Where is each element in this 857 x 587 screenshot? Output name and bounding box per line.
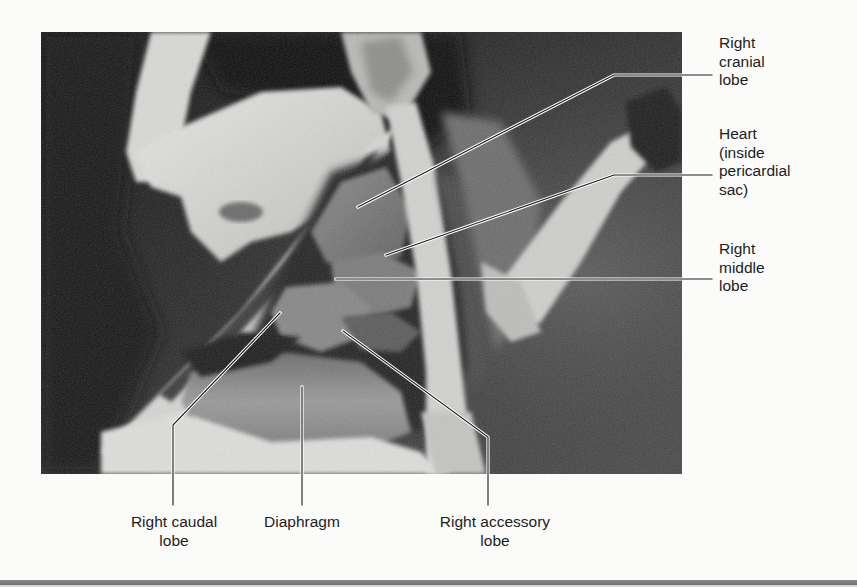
anatomy-figure: Right cranial lobe Heart (inside pericar… <box>0 0 857 587</box>
label-line: pericardial <box>719 162 791 181</box>
label-right-accessory-lobe: Right accessory lobe <box>420 513 570 550</box>
label-line: lobe <box>420 532 570 551</box>
label-line: sac) <box>719 181 791 200</box>
label-diaphragm: Diaphragm <box>248 513 356 532</box>
label-line: Right <box>719 240 765 259</box>
label-line: middle <box>719 259 765 278</box>
label-line: Right <box>719 34 765 53</box>
leader-right-cranial-lobe <box>358 75 712 207</box>
label-line: lobe <box>112 532 236 551</box>
label-line: lobe <box>719 277 765 296</box>
label-right-caudal-lobe: Right caudal lobe <box>112 513 236 550</box>
label-right-middle-lobe: Right middle lobe <box>719 240 765 296</box>
label-line: lobe <box>719 71 765 90</box>
label-line: Right accessory <box>420 513 570 532</box>
label-line: Diaphragm <box>248 513 356 532</box>
leader-heart <box>386 175 712 255</box>
label-line: cranial <box>719 53 765 72</box>
label-heart: Heart (inside pericardial sac) <box>719 125 791 199</box>
label-line: Heart <box>719 125 791 144</box>
leader-right-accessory-lobe <box>343 331 488 505</box>
label-line: (inside <box>719 144 791 163</box>
label-right-cranial-lobe: Right cranial lobe <box>719 34 765 90</box>
label-line: Right caudal <box>112 513 236 532</box>
